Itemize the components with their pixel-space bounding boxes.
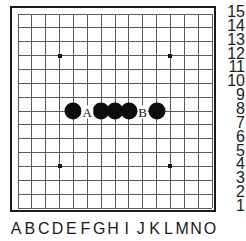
go-diagram: AB ABCDEFGHIJKLMNO 151413121110987654321 <box>0 0 246 241</box>
column-label-a: A <box>11 218 22 239</box>
row-label-1: 1 <box>236 199 245 213</box>
column-label-n: N <box>190 218 202 239</box>
go-board[interactable]: AB <box>10 6 216 212</box>
star-point <box>58 54 62 58</box>
row-labels: 151413121110987654321 <box>218 6 246 212</box>
stone-black-e8[interactable] <box>65 103 82 120</box>
board-area: AB <box>0 0 222 216</box>
column-label-k: K <box>149 218 160 239</box>
column-label-b: B <box>25 218 36 239</box>
column-label-m: M <box>176 218 189 239</box>
column-label-d: D <box>52 218 64 239</box>
column-label-g: G <box>93 218 105 239</box>
point-marker-b[interactable]: B <box>137 105 148 118</box>
stone-black-k8[interactable] <box>148 103 165 120</box>
column-label-l: L <box>164 218 173 239</box>
star-point <box>168 164 172 168</box>
column-label-f: F <box>80 218 90 239</box>
column-label-c: C <box>38 218 50 239</box>
stone-black-i8[interactable] <box>120 103 137 120</box>
column-label-i: I <box>125 218 129 239</box>
column-label-j: J <box>137 218 145 239</box>
column-label-e: E <box>66 218 77 239</box>
point-marker-a[interactable]: A <box>82 105 93 118</box>
star-point <box>168 54 172 58</box>
column-label-o: O <box>204 218 216 239</box>
column-label-h: H <box>107 218 119 239</box>
star-point <box>58 164 62 168</box>
column-labels: ABCDEFGHIJKLMNO <box>10 218 216 239</box>
